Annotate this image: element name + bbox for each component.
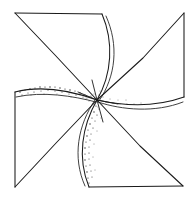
pinwheel-drawing-canvas: Pinwheel (0, 0, 190, 197)
pinwheel-illustration: Pinwheel (0, 0, 190, 197)
